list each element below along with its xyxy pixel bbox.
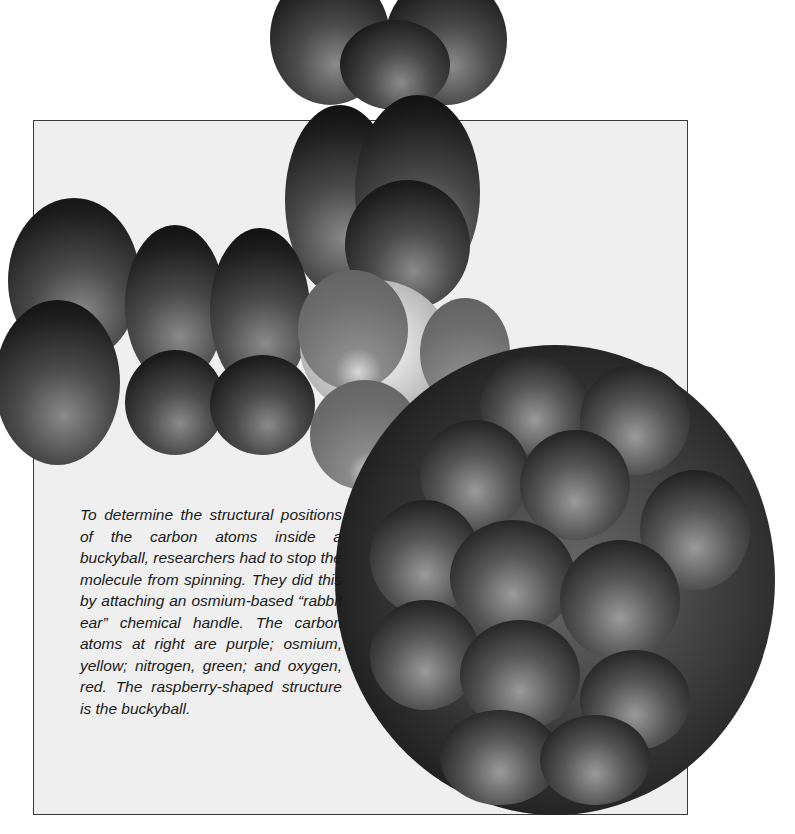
atom-left-2 xyxy=(0,300,120,465)
atom-top-center xyxy=(340,20,450,110)
bucky-atom-13 xyxy=(540,715,650,805)
bucky-atom-8 xyxy=(560,540,680,660)
bucky-atom-7 xyxy=(450,520,575,635)
atom-nitrogen-1 xyxy=(298,270,408,390)
figure-caption: To determine the structural positions of… xyxy=(80,504,342,719)
atom-left-6 xyxy=(210,355,315,455)
